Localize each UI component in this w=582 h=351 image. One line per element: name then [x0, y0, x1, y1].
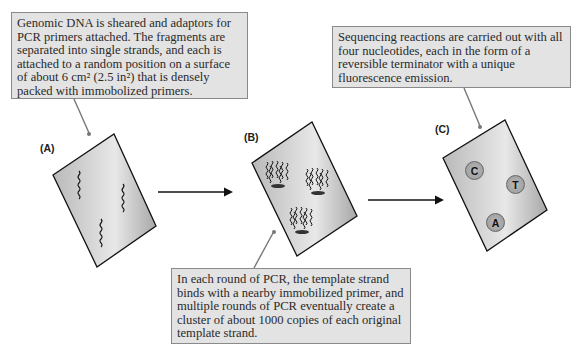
spot-label-c: C	[471, 165, 479, 177]
arrow-b-to-c	[368, 196, 444, 205]
leader-line-c	[464, 88, 482, 129]
nucleotide-spot-t: T	[506, 175, 525, 194]
leader-line-b	[254, 230, 276, 268]
nucleotide-spot-a: A	[486, 213, 505, 232]
flow-cell-a	[53, 134, 156, 267]
leader-line-a	[74, 99, 91, 136]
diagram-artwork	[0, 0, 582, 351]
arrow-a-to-b	[158, 188, 233, 197]
nucleotide-spot-c: C	[465, 161, 484, 180]
flow-cell-b	[252, 122, 357, 256]
spot-label-a: A	[492, 217, 500, 229]
spot-label-t: T	[512, 179, 518, 191]
